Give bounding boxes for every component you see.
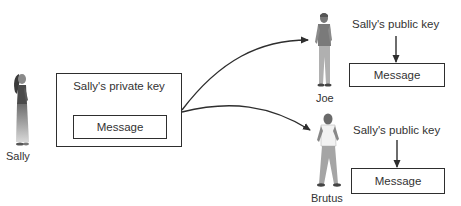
- sender-message-box: Message: [73, 115, 167, 139]
- arrow-to-joe: [182, 40, 308, 110]
- joe-public-key-label: Sally's public key: [352, 17, 439, 31]
- brutus-message-label: Message: [352, 174, 444, 188]
- sally-figure: [8, 72, 38, 150]
- man-icon: [312, 112, 344, 192]
- joe-message-label: Message: [350, 68, 444, 82]
- brutus-public-key-label: Sally's public key: [353, 123, 440, 137]
- joe-message-box: Message: [349, 63, 445, 87]
- brutus-message-box: Message: [351, 168, 445, 194]
- joe-figure: [310, 12, 336, 90]
- sender-private-key-box: Sally's private key Message: [56, 73, 182, 147]
- woman-icon: [8, 72, 38, 150]
- man-icon: [310, 12, 336, 90]
- brutus-figure: [312, 112, 344, 192]
- sally-name: Sally: [6, 150, 30, 163]
- arrow-to-brutus: [182, 106, 310, 130]
- diagram-canvas: Sally Sally's private key Message Joe Sa…: [0, 0, 461, 206]
- brutus-name: Brutus: [311, 192, 343, 205]
- joe-name: Joe: [316, 92, 334, 105]
- private-key-label: Sally's private key: [57, 79, 181, 93]
- sender-message-label: Message: [74, 120, 166, 134]
